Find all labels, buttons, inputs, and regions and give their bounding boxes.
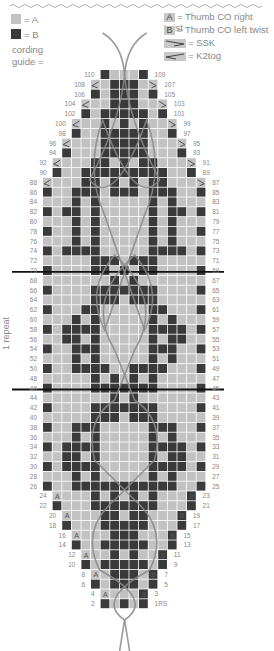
row-label-right: 101 xyxy=(174,110,185,117)
row-label-right: 61 xyxy=(212,306,219,313)
row-label-left: 2 xyxy=(91,600,95,607)
row-label-left: 62 xyxy=(30,306,37,313)
svg-text:A: A xyxy=(65,512,70,519)
row-label-left: 104 xyxy=(65,100,76,107)
row-label-left: 40 xyxy=(30,414,37,421)
row-label-left: 28 xyxy=(30,473,37,480)
row-label-right: 99 xyxy=(183,120,190,127)
row-label-left: 66 xyxy=(30,287,37,294)
row-label-left: 22 xyxy=(39,502,46,509)
row-label-left: 42 xyxy=(30,404,37,411)
row-label-left: 110 xyxy=(84,71,94,78)
row-label-right: 23 xyxy=(203,492,210,499)
row-label-left: 94 xyxy=(49,149,56,156)
row-label-right: 87 xyxy=(212,179,219,186)
row-label-left: 70 xyxy=(30,267,37,274)
row-label-right: 29 xyxy=(212,463,219,470)
row-label-left: 12 xyxy=(68,551,75,558)
row-label-left: 36 xyxy=(30,434,37,441)
row-label-left: 18 xyxy=(49,522,56,529)
row-label-right: 79 xyxy=(212,218,219,225)
row-label-left: 6 xyxy=(81,581,85,588)
row-label-right: 17 xyxy=(193,522,200,529)
row-label-right: 25 xyxy=(212,483,219,490)
row-label-left: 44 xyxy=(30,394,37,401)
row-label-left: 78 xyxy=(30,228,37,235)
row-label-left: 56 xyxy=(30,336,37,343)
row-label-right: 49 xyxy=(212,365,219,372)
row-label-left: 8 xyxy=(81,571,85,578)
row-label-right: 27 xyxy=(212,473,219,480)
svg-text:A: A xyxy=(103,591,108,598)
row-label-right: 15 xyxy=(183,532,190,539)
row-label-right: 47 xyxy=(212,375,219,382)
row-label-left: 46 xyxy=(30,385,37,392)
svg-text:B: B xyxy=(151,571,156,578)
row-label-left: 92 xyxy=(39,159,46,166)
row-label-left: 10 xyxy=(68,561,75,568)
row-label-right: 75 xyxy=(212,238,219,245)
svg-text:B: B xyxy=(170,532,175,539)
row-label-left: 24 xyxy=(39,492,46,499)
row-label-right: 63 xyxy=(212,296,219,303)
row-label-right: 55 xyxy=(212,336,219,343)
row-label-left: 72 xyxy=(30,257,37,264)
row-label-right: 69 xyxy=(212,267,219,274)
row-label-left: 100 xyxy=(55,120,66,127)
row-label-right: 31 xyxy=(212,453,219,460)
row-label-right: 109 xyxy=(155,71,166,78)
row-label-right: 57 xyxy=(212,326,219,333)
row-label-right: 95 xyxy=(193,140,200,147)
row-label-right: 5 xyxy=(164,581,168,588)
row-label-right: 51 xyxy=(212,355,219,362)
row-label-left: 58 xyxy=(30,326,37,333)
row-label-right: 53 xyxy=(212,345,219,352)
row-label-right: 1RS xyxy=(155,600,168,607)
row-label-left: 108 xyxy=(74,81,85,88)
row-label-right: 71 xyxy=(212,257,219,264)
svg-text:A: A xyxy=(93,571,98,578)
svg-text:B: B xyxy=(180,512,185,519)
row-label-left: 74 xyxy=(30,247,37,254)
row-label-left: 30 xyxy=(30,463,37,470)
row-label-right: 81 xyxy=(212,208,219,215)
row-label-left: 80 xyxy=(30,218,37,225)
row-label-left: 98 xyxy=(59,130,66,137)
row-label-left: 86 xyxy=(30,189,37,196)
row-label-right: 19 xyxy=(193,512,200,519)
row-label-right: 11 xyxy=(174,551,181,558)
svg-text:A: A xyxy=(84,552,89,559)
row-label-left: 20 xyxy=(49,512,56,519)
row-label-left: 26 xyxy=(30,483,37,490)
row-label-left: 50 xyxy=(30,365,37,372)
row-label-right: 45 xyxy=(212,385,219,392)
row-label-right: 105 xyxy=(164,91,175,98)
row-label-right: 85 xyxy=(212,189,219,196)
row-label-left: 96 xyxy=(49,140,56,147)
row-label-right: 33 xyxy=(212,443,219,450)
row-label-right: 89 xyxy=(203,169,210,176)
row-label-left: 106 xyxy=(74,91,85,98)
row-label-left: 32 xyxy=(30,453,37,460)
row-label-right: 35 xyxy=(212,434,219,441)
row-label-right: 91 xyxy=(203,159,210,166)
row-label-right: 103 xyxy=(174,100,185,107)
row-label-left: 76 xyxy=(30,238,37,245)
row-label-left: 60 xyxy=(30,316,37,323)
row-label-right: 83 xyxy=(212,198,219,205)
row-label-right: 67 xyxy=(212,277,219,284)
svg-text:B: B xyxy=(141,591,146,598)
row-label-right: 37 xyxy=(212,424,219,431)
row-label-right: 43 xyxy=(212,394,219,401)
row-label-right: 65 xyxy=(212,287,219,294)
row-label-left: 88 xyxy=(30,179,37,186)
row-label-right: 73 xyxy=(212,247,219,254)
row-label-right: 13 xyxy=(183,541,190,548)
row-label-left: 84 xyxy=(30,198,37,205)
row-label-right: 9 xyxy=(174,561,178,568)
row-label-left: 4 xyxy=(91,590,95,597)
svg-text:A: A xyxy=(74,532,79,539)
row-label-left: 54 xyxy=(30,345,37,352)
row-label-right: 107 xyxy=(164,81,175,88)
row-label-right: 7 xyxy=(164,571,168,578)
